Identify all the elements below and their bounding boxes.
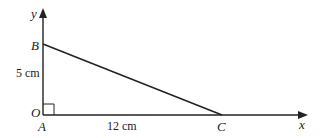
side-ab-length: 5 cm (16, 66, 40, 80)
x-axis-label: x (298, 117, 305, 132)
vertex-c-label: C (217, 119, 226, 134)
vertex-a-label: A (37, 119, 46, 134)
side-ac-length: 12 cm (107, 119, 137, 133)
origin-label: O (31, 105, 41, 120)
right-angle-marker (43, 104, 54, 115)
hypotenuse-bc (43, 44, 222, 115)
vertex-b-label: B (31, 38, 39, 53)
y-axis-arrow-icon (39, 8, 47, 18)
triangle-diagram: y x B O A C 5 cm 12 cm (0, 0, 323, 138)
y-axis-label: y (29, 6, 37, 21)
